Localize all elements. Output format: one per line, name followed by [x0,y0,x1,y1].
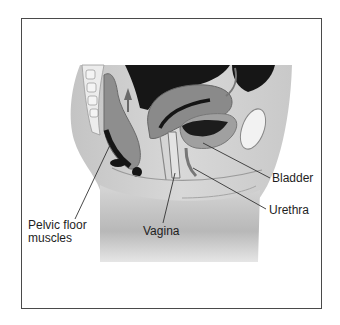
label-vagina: Vagina [143,225,179,238]
label-bladder: Bladder [272,172,313,185]
label-pelvic-floor-muscles: Pelvic floor muscles [28,219,87,245]
label-urethra: Urethra [269,204,309,217]
pelvis-cross-section-illustration [0,0,340,325]
label-pelvic-floor-line2: muscles [28,232,87,245]
